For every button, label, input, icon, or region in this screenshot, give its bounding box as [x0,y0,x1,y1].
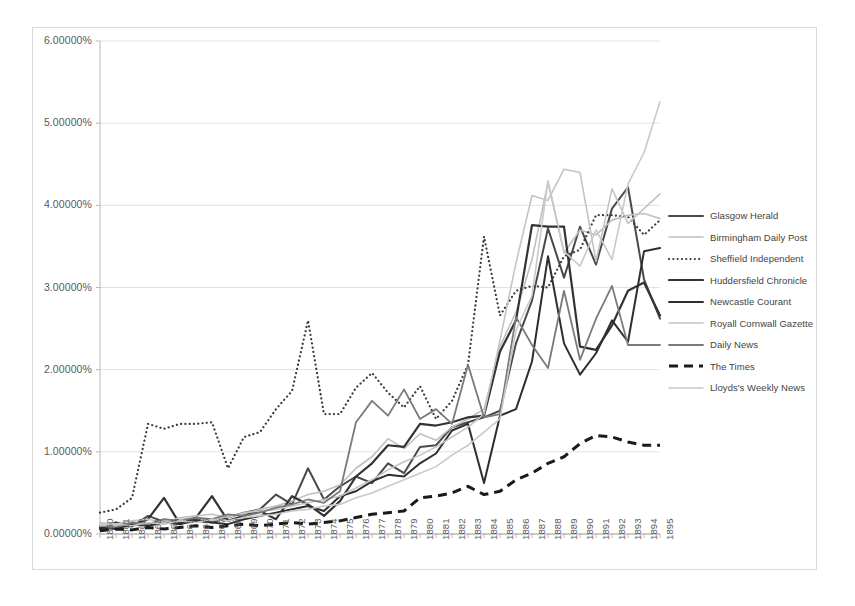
legend-item-royall-cornwall-gazette[interactable]: Royall Cornwall Gazette [668,313,818,335]
legend-label: Glasgow Herald [710,210,778,221]
x-axis-tick-label: 1872 [296,518,307,540]
legend-item-lloyds-s-weekly-news[interactable]: Lloyds's Weekly News [668,377,818,399]
x-axis-tick-label: 1864 [168,518,179,540]
legend-label: Lloyds's Weekly News [710,382,805,393]
x-axis-tick-label: 1891 [600,518,611,540]
legend-label: Birmingham Daily Post [710,232,807,243]
x-axis-tick-label: 1867 [216,518,227,540]
legend-swatch-icon [668,210,704,222]
legend-label: Newcastle Courant [710,296,791,307]
data-series-group [100,102,660,531]
x-axis-tick-label: 1875 [344,518,355,540]
x-axis-tick-label: 1862 [136,518,147,540]
legend-item-birmingham-daily-post[interactable]: Birmingham Daily Post [668,227,818,249]
legend-label: Sheffield Independent [710,253,803,264]
x-axis-tick-label: 1895 [664,518,675,540]
x-axis-tick-label: 1893 [632,518,643,540]
x-axis-tick-label: 1878 [392,518,403,540]
y-axis-tick-label: 6.00000% [20,34,92,46]
legend-swatch-icon [668,317,704,329]
legend-label: Daily News [710,339,758,350]
y-axis-tick-label: 4.00000% [20,198,92,210]
x-axis-tick-label: 1876 [360,518,371,540]
x-axis-tick-label: 1888 [552,518,563,540]
x-axis-tick-label: 1879 [408,518,419,540]
legend-label: Royall Cornwall Gazette [710,318,813,329]
gridlines [100,41,660,534]
x-axis-tick-label: 1881 [440,518,451,540]
x-axis-tick-label: 1894 [648,518,659,540]
y-axis-tick-label: 2.00000% [20,363,92,375]
x-axis-tick-label: 1871 [280,518,291,540]
x-axis-tick-label: 1866 [200,518,211,540]
legend-swatch-icon [668,274,704,286]
legend-item-daily-news[interactable]: Daily News [668,334,818,356]
x-axis-tick-label: 1874 [328,518,339,540]
x-axis-tick-label: 1892 [616,518,627,540]
x-axis-tick-label: 1886 [520,518,531,540]
legend-swatch-icon [668,360,704,372]
x-axis-tick-label: 1885 [504,518,515,540]
series-line-newcastle-courant [100,248,660,529]
x-axis-tick-label: 1863 [152,518,163,540]
x-axis-tick-label: 1882 [456,518,467,540]
legend-swatch-icon [668,231,704,243]
y-axis-tick-label: 1.00000% [20,445,92,457]
x-axis-tick-label: 1880 [424,518,435,540]
x-axis-tick-label: 1887 [536,518,547,540]
x-axis-tick-label: 1868 [232,518,243,540]
legend-swatch-icon [668,296,704,308]
x-axis-tick-label: 1883 [472,518,483,540]
legend-swatch-icon [668,339,704,351]
legend-item-newcastle-courant[interactable]: Newcastle Courant [668,291,818,313]
x-axis-tick-label: 1873 [312,518,323,540]
series-line-huddersfield-chronicle [100,225,660,529]
series-line-sheffield-independent [100,215,660,512]
x-axis-tick-label: 1889 [568,518,579,540]
y-axis-tick-label: 5.00000% [20,116,92,128]
x-axis-tick-label: 1869 [248,518,259,540]
legend-label: Huddersfield Chronicle [710,275,807,286]
legend-item-sheffield-independent[interactable]: Sheffield Independent [668,248,818,270]
legend-item-huddersfield-chronicle[interactable]: Huddersfield Chronicle [668,270,818,292]
x-axis-tick-label: 1865 [184,518,195,540]
y-axis-tick-label: 3.00000% [20,281,92,293]
x-axis-tick-label: 1890 [584,518,595,540]
legend-item-glasgow-herald[interactable]: Glasgow Herald [668,205,818,227]
x-axis-tick-label: 1870 [264,518,275,540]
x-axis-tick-label: 1861 [120,518,131,540]
legend-swatch-icon [668,253,704,265]
legend-item-the-times[interactable]: The Times [668,356,818,378]
legend-swatch-icon [668,382,704,394]
chart-legend: Glasgow HeraldBirmingham Daily PostSheff… [668,205,818,399]
series-line-royall-cornwall-gazette [100,169,660,524]
x-axis-tick-label: 1877 [376,518,387,540]
x-axis-tick-label: 1884 [488,518,499,540]
x-axis-tick-label: 1860 [104,518,115,540]
y-axis-tick-label: 0.00000% [20,527,92,539]
legend-label: The Times [710,361,755,372]
